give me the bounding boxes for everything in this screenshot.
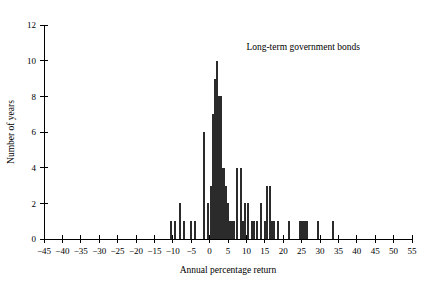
x-tick-label: −45 <box>37 246 52 256</box>
y-tick-label: 2 <box>32 199 37 209</box>
chart-canvas: 024681012 −45−40−35−30−25−20−15−10−50510… <box>0 0 424 292</box>
x-tick-label: 0 <box>207 246 212 256</box>
histogram-bar <box>220 96 222 239</box>
histogram-bar <box>304 221 306 239</box>
x-tick-label: −25 <box>111 246 126 256</box>
histogram-bar <box>299 221 301 239</box>
x-tick-label: −30 <box>92 246 107 256</box>
x-tick-label: 30 <box>316 246 326 256</box>
x-tick-label: −20 <box>129 246 144 256</box>
histogram-bar <box>242 221 244 239</box>
y-tick-label: 12 <box>27 20 36 30</box>
histogram-bar <box>269 186 271 240</box>
histogram-bar <box>170 221 172 239</box>
histogram-bar <box>332 221 334 239</box>
histogram-bar <box>301 221 303 239</box>
x-tick-label: −15 <box>147 246 162 256</box>
histogram-bar <box>288 221 290 239</box>
histogram-bar <box>253 221 255 239</box>
x-tick-label: −5 <box>186 246 196 256</box>
histogram-bar <box>244 203 246 239</box>
histogram-bar <box>225 186 227 240</box>
x-tick-label: 35 <box>334 246 344 256</box>
histogram-bar <box>317 221 319 239</box>
x-tick-label: 45 <box>371 246 381 256</box>
histogram-bar <box>251 221 253 239</box>
histogram-bar <box>264 221 266 239</box>
histogram-figure: 024681012 −45−40−35−30−25−20−15−10−50510… <box>0 0 424 292</box>
histogram-bar <box>227 203 229 239</box>
x-axis-title: Annual percentage return <box>180 265 277 275</box>
x-tick-label: 20 <box>279 246 289 256</box>
y-tick-label: 10 <box>27 56 37 66</box>
histogram-bars <box>170 61 334 239</box>
histogram-bar <box>231 221 233 239</box>
x-tick-label: 10 <box>242 246 252 256</box>
histogram-bar <box>218 96 220 239</box>
y-axis-title: Number of years <box>6 100 16 164</box>
histogram-bar <box>273 221 275 239</box>
histogram-bar <box>179 203 181 239</box>
histogram-bar <box>221 168 223 239</box>
histogram-bar <box>190 221 192 239</box>
histogram-bar <box>260 203 262 239</box>
histogram-bar <box>306 221 308 239</box>
x-tick-label: 15 <box>260 246 270 256</box>
histogram-bar <box>256 221 258 239</box>
x-tick-label: 25 <box>297 246 307 256</box>
y-tick-label: 6 <box>32 127 37 137</box>
x-tick-label: −40 <box>55 246 70 256</box>
histogram-bar <box>233 221 235 239</box>
histogram-bar <box>229 221 231 239</box>
histogram-bar <box>266 186 268 240</box>
histogram-bar <box>216 61 218 239</box>
histogram-bar <box>277 221 279 239</box>
x-tick-label: 5 <box>226 246 231 256</box>
y-tick-label: 0 <box>32 234 37 244</box>
x-tick-label: 50 <box>389 246 399 256</box>
histogram-bar <box>240 168 242 239</box>
y-tick-label: 8 <box>32 92 37 102</box>
x-tick-label: 40 <box>352 246 362 256</box>
y-axis-ticks: 024681012 <box>27 20 48 244</box>
histogram-bar <box>212 114 214 239</box>
histogram-bar <box>194 221 196 239</box>
x-tick-label: −35 <box>74 246 89 256</box>
histogram-bar <box>207 203 209 239</box>
histogram-bar <box>183 221 185 239</box>
histogram-bar <box>223 168 225 239</box>
series-title-label: Long-term government bonds <box>246 42 360 52</box>
histogram-bar <box>236 168 238 239</box>
histogram-bar <box>302 221 304 239</box>
histogram-bar <box>214 79 216 240</box>
histogram-bar <box>247 203 249 239</box>
histogram-bar <box>203 132 205 239</box>
x-tick-label: 55 <box>408 246 418 256</box>
y-tick-label: 4 <box>32 163 37 173</box>
histogram-bar <box>174 221 176 239</box>
histogram-bar <box>210 186 212 240</box>
histogram-bar <box>271 221 273 239</box>
x-tick-label: −10 <box>166 246 181 256</box>
